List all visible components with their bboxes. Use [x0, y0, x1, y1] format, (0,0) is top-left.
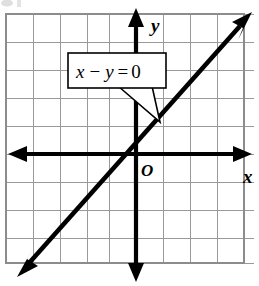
y-axis-label: y [149, 15, 160, 36]
equation-var-y: y [103, 61, 114, 82]
y-axis-arrow-down [128, 263, 144, 282]
page-artifact-smudge [1, 0, 21, 7]
coordinate-plane-figure: x−y=0 y x O [0, 0, 259, 286]
callout-tail [118, 86, 160, 122]
x-axis-arrow-left [8, 146, 27, 162]
line-arrow-upper-right [232, 12, 252, 40]
equation-equals: = [118, 61, 129, 82]
y-axis [128, 8, 144, 282]
graph-canvas: x−y=0 y x O [0, 0, 259, 286]
equation-rhs: 0 [131, 61, 141, 82]
equation-callout: x−y=0 [68, 53, 166, 88]
origin-label: O [141, 161, 153, 180]
y-axis-arrow-up [128, 8, 144, 27]
x-axis-arrow-right [233, 146, 252, 162]
equation-var-x: x [75, 61, 85, 82]
equation-operator: − [89, 61, 100, 82]
x-axis-label: x [242, 166, 253, 187]
